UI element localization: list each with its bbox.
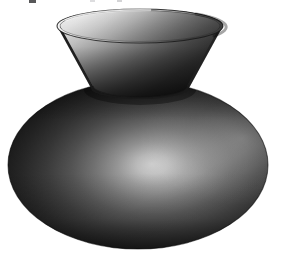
scan-artifacts: [29, 0, 122, 3]
scan-speck-left-icon: [29, 0, 36, 3]
vase-render-canvas: Shaded 3D vase render: [0, 0, 282, 258]
scan-speck-right-icon: [117, 0, 122, 2]
vase-neck-interior: [55, 8, 230, 100]
vase-illustration: [0, 0, 282, 258]
vase-cavity-depth: [55, 8, 230, 100]
vase-body: [8, 75, 268, 249]
scan-speck-mid-icon: [90, 0, 95, 2]
